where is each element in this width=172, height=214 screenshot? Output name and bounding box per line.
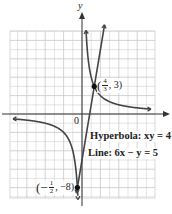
hyperbola-equation-label: Hyperbola: xy = 4	[89, 131, 172, 142]
line-equation-label: Line: 6x − y = 5	[87, 148, 159, 159]
intersection-point	[75, 185, 80, 190]
origin-label: 0	[74, 116, 79, 126]
fraction: 43	[102, 78, 108, 93]
fraction: 12	[49, 180, 55, 195]
point-label-4-3-3: (43, 3)	[97, 78, 122, 93]
point-label-neg-half-neg-8: (−12, −8)	[36, 180, 74, 195]
chart-canvas	[0, 0, 172, 214]
y-axis-label: y	[78, 1, 82, 11]
